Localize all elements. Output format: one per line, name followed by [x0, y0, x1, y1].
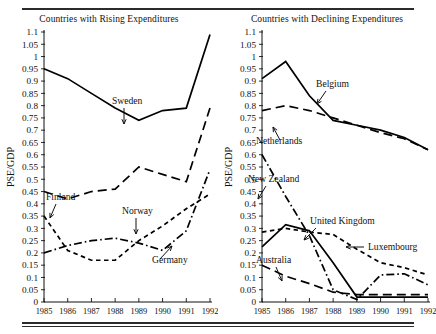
series-label-luxembourg: Luxembourg — [368, 241, 418, 252]
series-label-united-kingdom: United Kingdom — [310, 215, 375, 226]
series-line-norway — [44, 194, 210, 260]
series-label-australia: Australia — [256, 254, 292, 265]
x-tick-label: 1985 — [36, 307, 53, 314]
y-tick-label: 0.65 — [22, 138, 38, 148]
y-tick-label: 0.3 — [245, 224, 257, 234]
y-tick-label: 0.95 — [22, 64, 38, 74]
y-tick-label: 0.35 — [22, 211, 38, 221]
y-tick-label: 0.6 — [245, 150, 257, 160]
y-tick-label: 0.1 — [27, 273, 39, 283]
chart-declining-expenditures: 1.11.0510.950.90.850.80.750.70.650.60.55… — [218, 24, 436, 314]
y-tick-label: 0.2 — [245, 248, 257, 258]
x-tick-label: 1988 — [325, 307, 342, 314]
x-tick-label: 1989 — [130, 307, 147, 314]
y-axis-title: PSE/GDP — [223, 147, 234, 187]
x-tick-label: 1991 — [178, 307, 195, 314]
y-tick-label: 0.25 — [240, 236, 256, 246]
y-tick-label: 1.05 — [22, 40, 38, 50]
y-tick-label: 1.1 — [245, 27, 257, 37]
panel-declining-expenditures: Countries with Declining Expenditures 1.… — [218, 14, 436, 314]
x-tick-label: 1987 — [301, 307, 318, 314]
series-label-netherlands: Netherlands — [256, 135, 303, 146]
y-tick-label: 0.15 — [240, 260, 256, 270]
y-tick-label: 0.25 — [22, 236, 38, 246]
y-tick-label: 0.6 — [27, 150, 39, 160]
top-rule — [22, 8, 414, 10]
series-line-finland — [44, 108, 210, 199]
panel-title-rising: Countries with Rising Expenditures — [0, 14, 218, 24]
bottom-rule-thin — [22, 326, 414, 327]
y-tick-label: 0.9 — [245, 76, 257, 86]
figure-container: Countries with Rising Expenditures 1.11.… — [0, 0, 436, 334]
series-line-sweden — [44, 34, 210, 120]
panel-title-declining: Countries with Declining Expenditures — [218, 14, 436, 24]
y-tick-label: 0.45 — [240, 187, 256, 197]
annotation-arrow — [317, 91, 326, 104]
x-tick-label: 1992 — [202, 307, 218, 314]
panel-rising-expenditures: Countries with Rising Expenditures 1.11.… — [0, 14, 218, 314]
y-tick-label: 0.4 — [27, 199, 39, 209]
y-tick-label: 0.15 — [22, 260, 38, 270]
y-tick-label: 0.55 — [22, 162, 38, 172]
x-tick-label: 1990 — [372, 307, 389, 314]
y-tick-label: 0.4 — [245, 199, 257, 209]
y-tick-label: 0.85 — [240, 89, 256, 99]
x-tick-label: 1986 — [277, 307, 294, 314]
y-tick-label: 0.5 — [27, 175, 39, 185]
y-tick-label: 0.7 — [245, 125, 257, 135]
y-axis-title: PSE/GDP — [5, 147, 16, 187]
x-tick-label: 1986 — [59, 307, 76, 314]
series-label-finland: Finland — [46, 191, 76, 202]
series-label-new-zealand: New Zealand — [248, 173, 300, 184]
series-label-norway: Norway — [122, 205, 153, 216]
y-tick-label: 0.2 — [27, 248, 39, 258]
y-tick-label: 1 — [251, 52, 256, 62]
chart-rising-expenditures: 1.11.0510.950.90.850.80.750.70.650.60.55… — [0, 24, 218, 314]
x-tick-label: 1987 — [83, 307, 100, 314]
y-tick-label: 0 — [33, 297, 38, 307]
y-tick-label: 0.75 — [22, 113, 38, 123]
series-label-belgium: Belgium — [316, 78, 350, 89]
bottom-rule-thick — [22, 322, 414, 324]
series-label-germany: Germany — [152, 254, 188, 265]
y-tick-label: 0.7 — [27, 125, 39, 135]
y-tick-label: 0.3 — [27, 224, 39, 234]
y-tick-label: 0.05 — [240, 285, 256, 295]
y-tick-label: 0.55 — [240, 162, 256, 172]
x-tick-label: 1991 — [396, 307, 413, 314]
series-label-sweden: Sweden — [112, 95, 143, 106]
x-tick-label: 1992 — [420, 307, 436, 314]
y-tick-label: 0.8 — [27, 101, 39, 111]
x-tick-label: 1985 — [254, 307, 271, 314]
y-tick-label: 0.65 — [240, 138, 256, 148]
y-tick-label: 0.9 — [27, 76, 39, 86]
y-tick-label: 1 — [33, 52, 38, 62]
x-tick-label: 1989 — [348, 307, 365, 314]
y-tick-label: 0.05 — [22, 285, 38, 295]
y-tick-label: 0.75 — [240, 113, 256, 123]
y-tick-label: 0.45 — [22, 187, 38, 197]
y-tick-label: 0.8 — [245, 101, 257, 111]
x-tick-label: 1988 — [107, 307, 124, 314]
y-tick-label: 0.95 — [240, 64, 256, 74]
y-tick-label: 0 — [251, 297, 256, 307]
y-tick-label: 0.1 — [245, 273, 257, 283]
y-tick-label: 1.05 — [240, 40, 256, 50]
y-tick-label: 0.85 — [22, 89, 38, 99]
y-tick-label: 1.1 — [27, 27, 39, 37]
y-tick-label: 0.35 — [240, 211, 256, 221]
x-tick-label: 1990 — [154, 307, 171, 314]
